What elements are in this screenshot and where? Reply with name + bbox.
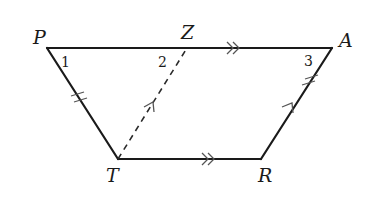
vertex-label-A: A — [337, 29, 353, 51]
vertex-label-R: R — [257, 164, 272, 186]
segment-RA — [261, 48, 332, 159]
angle-label-3: 3 — [304, 53, 313, 69]
segment-PT — [47, 48, 118, 159]
vertex-label-Z: Z — [180, 21, 195, 43]
angle-label-2: 2 — [158, 54, 167, 70]
vertex-label-P: P — [32, 26, 47, 48]
angle-label-1: 1 — [61, 54, 70, 70]
trapezoid-diagram: P Z A T R 1 2 3 — [0, 0, 370, 198]
vertex-label-T: T — [106, 164, 120, 186]
